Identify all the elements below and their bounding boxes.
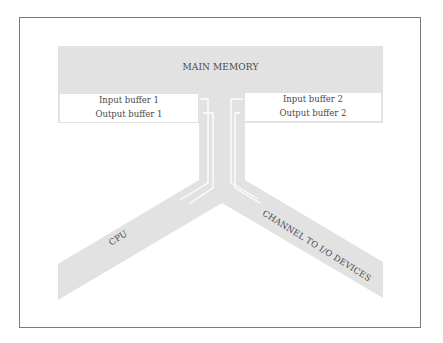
output-buffer-1-label: Output buffer 1	[95, 109, 162, 119]
input-buffer-1-label: Input buffer 1	[99, 95, 159, 105]
output-buffer-2: Output buffer 2	[245, 107, 381, 121]
input-buffer-1: Input buffer 1	[60, 94, 198, 108]
output-buffer-2-label: Output buffer 2	[279, 108, 346, 118]
output-buffer-1: Output buffer 1	[60, 108, 198, 122]
input-buffer-2-label: Input buffer 2	[283, 94, 343, 104]
main-memory-label: MAIN MEMORY	[58, 62, 383, 72]
central-stem	[199, 120, 245, 186]
input-buffer-2: Input buffer 2	[245, 93, 381, 107]
memory-channel-diagram	[0, 0, 443, 343]
